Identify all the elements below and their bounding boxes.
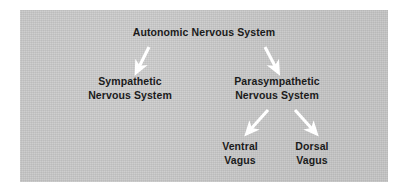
node-sympathetic-line1: Sympathetic bbox=[50, 75, 210, 89]
node-autonomic-nervous-system: Autonomic Nervous System bbox=[0, 26, 408, 40]
node-dorsal-vagus-line2: Vagus bbox=[252, 154, 372, 168]
autonomic-nervous-system-diagram: Autonomic Nervous System Sympathetic Ner… bbox=[0, 0, 408, 192]
arrow-parasympathetic-to-ventral-vagus bbox=[250, 110, 268, 130]
node-sympathetic-line2: Nervous System bbox=[50, 89, 210, 103]
node-autonomic-nervous-system-label: Autonomic Nervous System bbox=[133, 26, 275, 38]
node-parasympathetic-nervous-system: Parasympathetic Nervous System bbox=[197, 75, 357, 102]
node-parasympathetic-line2: Nervous System bbox=[197, 89, 357, 103]
node-parasympathetic-line1: Parasympathetic bbox=[197, 75, 357, 89]
node-dorsal-vagus: Dorsal Vagus bbox=[252, 140, 372, 167]
node-sympathetic-nervous-system: Sympathetic Nervous System bbox=[50, 75, 210, 102]
arrow-root-to-sympathetic bbox=[139, 47, 150, 68]
node-dorsal-vagus-line1: Dorsal bbox=[252, 140, 372, 154]
arrow-root-to-parasympathetic bbox=[265, 47, 276, 68]
arrow-parasympathetic-to-dorsal-vagus bbox=[295, 110, 313, 130]
